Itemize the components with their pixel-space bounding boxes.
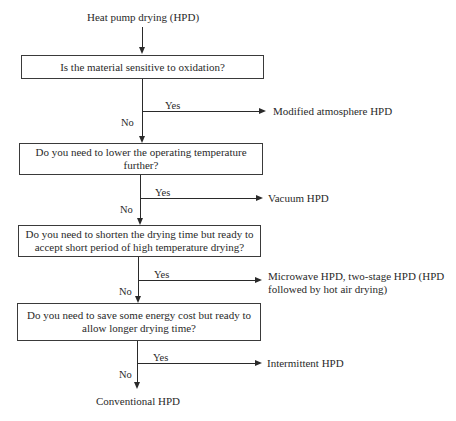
connector-line [140,175,141,218]
connector-line [142,79,143,136]
yes-label: Yes [154,268,169,281]
yes-label: Yes [155,186,170,199]
decision-box-lower-temperature: Do you need to lower the operating tempe… [19,143,263,175]
outcome-conventional-hpd: Conventional HPD [78,395,198,408]
decision-box-save-energy: Do you need to save some energy cost but… [17,303,261,341]
arrow-down-icon [139,47,145,54]
arrow-right-icon [255,277,262,283]
decision-box-oxidation: Is the material sensitive to oxidation? [21,55,264,79]
connector-line [138,257,139,296]
decision-text: Do you need to shorten the drying time b… [25,228,254,254]
decision-text: Is the material sensitive to oxidation? [60,61,225,74]
arrow-down-icon [134,382,140,389]
no-label: No [121,116,134,129]
arrow-right-icon [256,195,263,201]
connector-line [137,341,138,383]
decision-box-shorten-drying-time: Do you need to shorten the drying time b… [18,225,261,257]
outcome-intermittent-hpd: Intermittent HPD [267,357,344,370]
flowchart-start-label: Heat pump drying (HPD) [85,11,201,24]
decision-text: Do you need to save some energy cost but… [24,309,254,335]
arrow-right-icon [259,108,266,114]
yes-label: Yes [153,351,168,364]
no-label: No [120,203,133,216]
arrow-down-icon [139,136,145,143]
yes-branch-line [142,111,260,112]
arrow-right-icon [255,360,262,366]
connector-line [142,27,143,47]
outcome-vacuum-hpd: Vacuum HPD [268,192,329,205]
yes-label: Yes [165,99,180,112]
arrow-down-icon [135,296,141,303]
outcome-modified-atmosphere-hpd: Modified atmosphere HPD [273,105,392,118]
no-label: No [119,285,132,298]
outcome-microwave-two-stage-hpd: Microwave HPD, two-stage HPD (HPD follow… [268,270,448,296]
arrow-down-icon [137,218,143,225]
no-label: No [119,368,132,381]
decision-text: Do you need to lower the operating tempe… [26,146,256,172]
